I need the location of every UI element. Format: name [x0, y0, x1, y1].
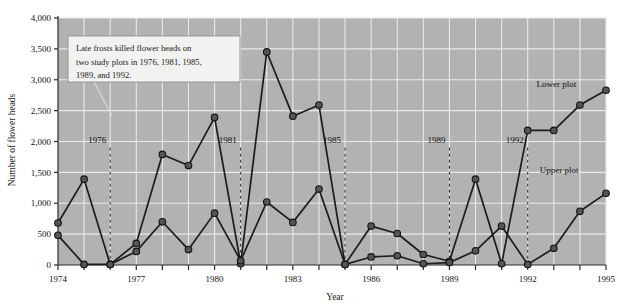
y-axis-title: Number of flower heads: [7, 93, 17, 186]
x-tick-label: 1992: [519, 274, 537, 284]
data-point: [551, 127, 558, 134]
data-point: [55, 220, 62, 227]
x-tick-label: 1983: [284, 274, 303, 284]
data-point: [133, 240, 140, 247]
data-point: [211, 114, 218, 121]
data-point: [603, 87, 610, 94]
data-point: [185, 246, 192, 253]
data-point: [368, 223, 375, 230]
x-tick-label: 1974: [49, 274, 68, 284]
data-point: [446, 259, 453, 266]
y-tick-label: 0: [47, 260, 52, 270]
y-tick-label: 3,000: [31, 75, 52, 85]
x-tick-label: 1977: [127, 274, 146, 284]
y-tick-label: 4,000: [31, 13, 52, 23]
event-year-label: 1989: [427, 135, 446, 145]
annotation-line: 1989, and 1992.: [76, 70, 131, 80]
flower-heads-line-chart: 05001,0001,5002,0002,5003,0003,5004,000 …: [0, 0, 618, 307]
data-point: [577, 102, 584, 109]
x-axis-title: Year: [326, 292, 344, 302]
data-point: [394, 230, 401, 237]
y-tick-label: 2,000: [31, 137, 52, 147]
data-point: [159, 151, 166, 158]
y-tick-label: 1,000: [31, 198, 52, 208]
data-point: [290, 219, 297, 226]
y-tick-label: 500: [38, 229, 52, 239]
annotation-line: Late frosts killed flower heads on: [76, 43, 192, 53]
data-point: [472, 247, 479, 254]
data-point: [551, 245, 558, 252]
series-label: Upper plot: [540, 165, 579, 175]
data-point: [107, 261, 114, 268]
data-point: [524, 261, 531, 268]
data-point: [394, 252, 401, 259]
data-point: [498, 223, 505, 230]
figure-root: 05001,0001,5002,0002,5003,0003,5004,000 …: [0, 0, 618, 307]
y-tick-label: 1,500: [31, 168, 52, 178]
data-point: [81, 261, 88, 268]
annotation-line: two study plots in 1976, 1981, 1985,: [76, 57, 202, 67]
data-point: [368, 254, 375, 261]
y-tick-label: 2,500: [31, 106, 52, 116]
data-point: [185, 162, 192, 169]
event-year-label: 1992: [506, 135, 524, 145]
data-point: [603, 190, 610, 197]
x-tick-label: 1986: [362, 274, 381, 284]
data-point: [420, 260, 427, 267]
data-point: [81, 176, 88, 183]
x-tick-label: 1980: [206, 274, 225, 284]
data-point: [420, 251, 427, 258]
data-point: [55, 232, 62, 239]
series-label: Lower plot: [537, 79, 577, 89]
chart-canvas: 05001,0001,5002,0002,5003,0003,5004,000 …: [0, 0, 618, 307]
data-point: [290, 113, 297, 120]
y-tick-label: 3,500: [31, 44, 52, 54]
data-point: [159, 218, 166, 225]
data-point: [133, 248, 140, 255]
data-point: [498, 260, 505, 267]
event-year-label: 1976: [88, 135, 107, 145]
data-point: [316, 186, 323, 193]
event-year-label: 1981: [219, 135, 237, 145]
data-point: [211, 210, 218, 217]
x-tick-label: 1995: [597, 274, 616, 284]
data-point: [263, 49, 270, 56]
data-point: [316, 102, 323, 109]
data-point: [342, 261, 349, 268]
data-point: [263, 199, 270, 206]
x-tick-label: 1989: [440, 274, 459, 284]
data-point: [237, 257, 244, 264]
data-point: [472, 176, 479, 183]
data-point: [577, 208, 584, 215]
data-point: [524, 127, 531, 134]
